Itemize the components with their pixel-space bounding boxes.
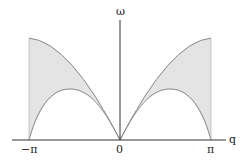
tick-pi: π bbox=[207, 144, 214, 155]
x-axis-label: q bbox=[229, 134, 236, 145]
tick-neg-pi: −π bbox=[21, 144, 37, 155]
tick-zero: 0 bbox=[116, 144, 123, 155]
continuum-diagram bbox=[0, 0, 247, 160]
y-axis-label: ω bbox=[116, 6, 125, 17]
